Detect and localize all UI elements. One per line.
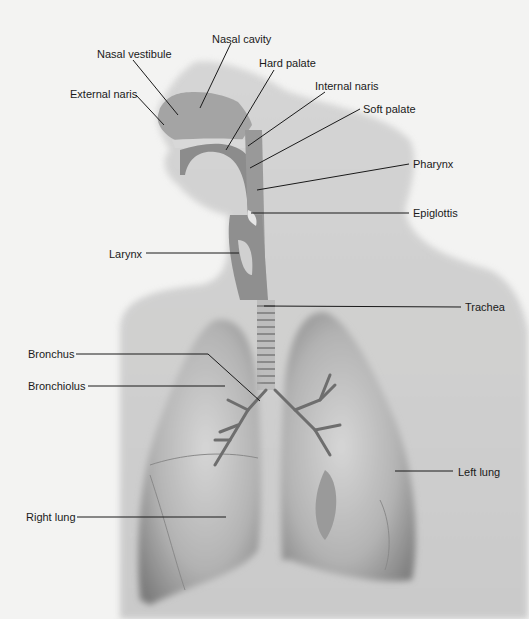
label-hard-palate: Hard palate <box>259 57 316 69</box>
label-left-lung: Left lung <box>458 466 500 478</box>
label-external-naris: External naris <box>70 88 137 100</box>
label-bronchiolus: Bronchiolus <box>28 380 85 392</box>
label-larynx: Larynx <box>109 248 142 260</box>
label-nasal-cavity: Nasal cavity <box>212 33 271 45</box>
label-soft-palate: Soft palate <box>363 103 416 115</box>
label-internal-naris: Internal naris <box>315 80 379 92</box>
label-trachea: Trachea <box>465 301 505 313</box>
label-pharynx: Pharynx <box>413 158 453 170</box>
label-right-lung: Right lung <box>26 511 76 523</box>
label-bronchus: Bronchus <box>28 348 74 360</box>
trachea <box>257 300 275 390</box>
label-epiglottis: Epiglottis <box>413 207 458 219</box>
label-nasal-vestibule: Nasal vestibule <box>97 48 172 60</box>
